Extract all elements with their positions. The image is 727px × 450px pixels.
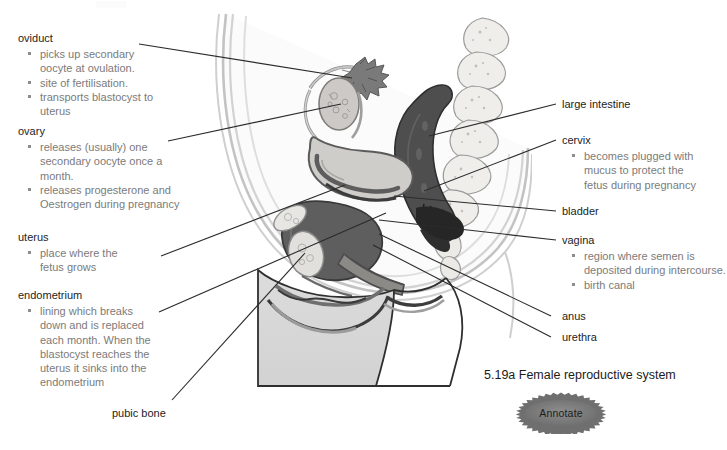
annotation-uterus: uterus place where the fetus grows: [18, 231, 118, 275]
bullet-line: uterus: [40, 104, 153, 118]
bullet-line: picks up secondary: [40, 47, 153, 61]
bullet-line: uterus it sinks into the: [40, 361, 151, 375]
annotation-heading-large-intestine: large intestine: [562, 98, 631, 111]
bullet-line: fetus grows: [40, 260, 118, 274]
annotation-anus: anus: [562, 310, 586, 325]
list-item: region where semen is deposited during i…: [562, 249, 726, 278]
list-item: place where the fetus grows: [18, 246, 118, 275]
list-item: releases (usually) one secondary oocyte …: [18, 140, 179, 183]
annotation-bullets-uterus: place where the fetus grows: [18, 246, 118, 275]
list-item: lining which breaks down and is replaced…: [18, 304, 151, 390]
bullet-icon: [572, 154, 575, 157]
list-item: releases progesterone and Oestrogen duri…: [18, 183, 179, 212]
annotation-vagina: vagina region where semen is deposited d…: [562, 234, 726, 292]
annotation-heading-bladder: bladder: [562, 205, 599, 218]
bullet-line: down and is replaced: [40, 318, 151, 332]
annotation-heading-urethra: urethra: [562, 331, 597, 344]
annotation-bullets-ovary: releases (usually) one secondary oocyte …: [18, 140, 179, 211]
list-item: site of fertilisation.: [18, 76, 153, 90]
bullet-line: site of fertilisation.: [40, 76, 153, 90]
starburst-icon: [505, 392, 617, 434]
bullet-icon: [28, 52, 31, 55]
top-edge-artifact: [96, 1, 126, 8]
list-item: becomes plugged with mucus to protect th…: [562, 149, 696, 192]
bullet-line: mucus to protect the: [584, 163, 696, 177]
anatomy-illustration: [198, 8, 532, 388]
annotation-heading-uterus: uterus: [18, 231, 118, 244]
bullet-line: birth canal: [584, 278, 726, 292]
annotate-button[interactable]: Annotate: [505, 392, 617, 434]
annotation-bullets-vagina: region where semen is deposited during i…: [562, 249, 726, 292]
bullet-icon: [28, 309, 31, 312]
annotation-bullets-oviduct: picks up secondary oocyte at ovulation. …: [18, 47, 153, 118]
bullet-line: each month. When the: [40, 333, 151, 347]
bullet-icon: [572, 283, 575, 286]
annotation-endometrium: endometrium lining which breaks down and…: [18, 289, 151, 390]
annotation-bullets-endometrium: lining which breaks down and is replaced…: [18, 304, 151, 390]
annotation-heading-oviduct: oviduct: [18, 32, 153, 45]
bullet-line: deposited during intercourse.: [584, 263, 726, 277]
bullet-line: lining which breaks: [40, 304, 151, 318]
annotation-cervix: cervix becomes plugged with mucus to pro…: [562, 134, 696, 192]
bullet-line: fetus during pregnancy: [584, 178, 696, 192]
bullet-line: month.: [40, 169, 179, 183]
annotation-bladder: bladder: [562, 205, 599, 220]
bullet-icon: [28, 95, 31, 98]
annotation-heading-anus: anus: [562, 310, 586, 323]
bullet-line: region where semen is: [584, 249, 726, 263]
list-item: birth canal: [562, 278, 726, 292]
bullet-icon: [28, 145, 31, 148]
annotation-heading-pubic-bone: pubic bone: [112, 407, 166, 420]
bullet-line: secondary oocyte once a: [40, 154, 179, 168]
annotation-ovary: ovary releases (usually) one secondary o…: [18, 125, 179, 211]
bullet-line: blastocyst reaches the: [40, 347, 151, 361]
annotation-oviduct: oviduct picks up secondary oocyte at ovu…: [18, 32, 153, 118]
bullet-icon: [28, 188, 31, 191]
annotation-heading-cervix: cervix: [562, 134, 696, 147]
bullet-line: releases progesterone and: [40, 183, 179, 197]
bullet-line: Oestrogen during pregnancy: [40, 197, 179, 211]
annotation-pubic-bone: pubic bone: [112, 407, 166, 422]
list-item: picks up secondary oocyte at ovulation.: [18, 47, 153, 76]
annotation-heading-vagina: vagina: [562, 234, 726, 247]
slide-canvas: oviduct picks up secondary oocyte at ovu…: [0, 0, 727, 450]
bullet-icon: [28, 251, 31, 254]
bullet-icon: [572, 254, 575, 257]
bullet-line: transports blastocyst to: [40, 90, 153, 104]
list-item: transports blastocyst to uterus: [18, 90, 153, 119]
bullet-line: becomes plugged with: [584, 149, 696, 163]
annotation-urethra: urethra: [562, 331, 597, 346]
annotation-large-intestine: large intestine: [562, 98, 631, 113]
annotation-heading-endometrium: endometrium: [18, 289, 151, 302]
figure-caption: 5.19a Female reproductive system: [484, 368, 676, 382]
bullet-line: place where the: [40, 246, 118, 260]
bullet-line: oocyte at ovulation.: [40, 61, 153, 75]
annotation-heading-ovary: ovary: [18, 125, 179, 138]
bullet-icon: [28, 81, 31, 84]
bullet-line: endometrium: [40, 375, 151, 389]
annotation-bullets-cervix: becomes plugged with mucus to protect th…: [562, 149, 696, 192]
bullet-line: releases (usually) one: [40, 140, 179, 154]
